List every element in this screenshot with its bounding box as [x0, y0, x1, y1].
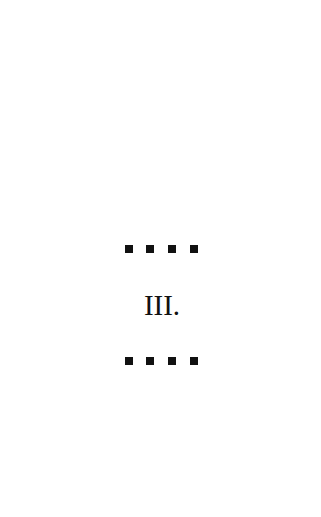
square-dot-icon [168, 357, 176, 365]
square-dot-icon [146, 357, 154, 365]
square-dot-icon [168, 245, 176, 253]
top-ornament-divider [125, 245, 198, 253]
square-dot-icon [190, 357, 198, 365]
chapter-heading: III. [0, 289, 321, 321]
square-dot-icon [146, 245, 154, 253]
square-dot-icon [125, 357, 133, 365]
bottom-ornament-divider [125, 357, 198, 365]
square-dot-icon [125, 245, 133, 253]
square-dot-icon [190, 245, 198, 253]
